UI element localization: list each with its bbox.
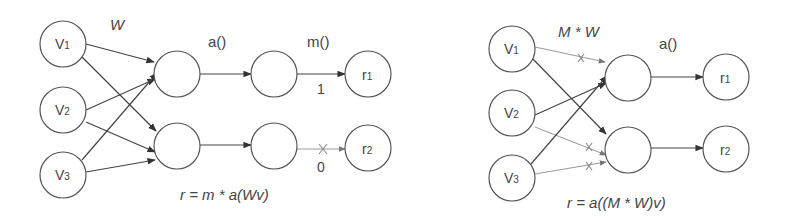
diagram-canvas: V1 V2 V3 r1 r2 W a() m() 1 0 r = m * a(W… (0, 0, 789, 222)
left-mask-value-0: 0 (317, 159, 325, 175)
left-weight-label: W (110, 16, 126, 33)
edge-v2-h2 (86, 122, 155, 152)
left-hidden-node-1 (154, 51, 200, 97)
right-activation-label: a() (659, 35, 677, 52)
edge-v1-h2 (82, 57, 156, 131)
edge-v3-h2 (86, 160, 155, 172)
mask-x-icon (586, 162, 592, 170)
mask-x-icon (578, 54, 584, 62)
edge-v1-h1 (86, 44, 154, 62)
left-activation-node-1 (251, 51, 297, 97)
edge-v1-h1-masked (535, 47, 605, 62)
edge-v3-h1 (82, 73, 157, 160)
right-hidden-node-1 (605, 55, 651, 101)
left-activation-label: a() (208, 33, 226, 50)
edge-v3-h2-masked (535, 162, 606, 174)
right-panel: V1 V2 V3 r1 r2 M * W a() r = a((M * W)v) (489, 23, 749, 211)
left-panel: V1 V2 V3 r1 r2 W a() m() 1 0 r = m * a(W… (40, 16, 391, 203)
edge-v2-h1 (535, 83, 606, 115)
left-activation-node-2 (251, 123, 297, 169)
edge-v1-h2 (531, 57, 606, 134)
left-weight-edges (82, 44, 157, 172)
left-formula: r = m * a(Wv) (180, 186, 269, 203)
edge-v2-h2-masked (535, 127, 606, 155)
left-mask-label: m() (307, 33, 330, 50)
right-weight-edges (531, 47, 607, 174)
right-hidden-node-2 (605, 127, 651, 173)
left-hidden-node-2 (154, 123, 200, 169)
left-mask-value-1: 1 (317, 81, 325, 97)
right-weight-label: M * W (558, 23, 601, 40)
edge-v2-h1 (86, 79, 155, 110)
right-formula: r = a((M * W)v) (567, 194, 666, 211)
